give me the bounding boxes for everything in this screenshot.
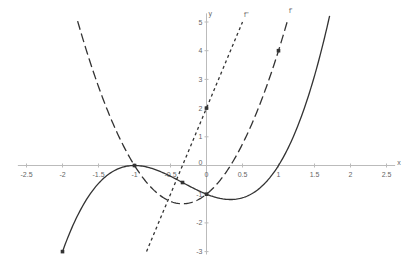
y-tick-label: 1 [199, 133, 203, 140]
x-tick-label: -2 [59, 171, 65, 178]
x-tick-label: -1 [131, 171, 137, 178]
x-tick-label: 0.5 [238, 171, 248, 178]
data-point [133, 164, 137, 168]
axes: -2.5-2-1.5-1-0.500.511.522.5-3-2-1123450… [18, 10, 401, 255]
label-f-double-prime: f'' [244, 11, 249, 18]
y-tick-label: 4 [199, 47, 203, 54]
data-point [205, 106, 209, 110]
y-tick-label: 5 [199, 19, 203, 26]
curve-f-prime-prime [147, 22, 243, 252]
curve-f-prime [78, 21, 288, 204]
points [61, 49, 281, 254]
data-point [61, 250, 65, 254]
curves [63, 16, 330, 252]
data-point [205, 192, 209, 196]
x-axis-name: x [397, 159, 401, 166]
y-tick-label: 2 [199, 105, 203, 112]
label-f-prime: f' [289, 7, 292, 14]
y-tick-label: -3 [196, 248, 202, 255]
data-point [181, 181, 185, 185]
x-tick-label: 2.5 [382, 171, 392, 178]
x-tick-label: 0 [205, 171, 209, 178]
plot-area: -2.5-2-1.5-1-0.500.511.522.5-3-2-1123450… [0, 0, 414, 271]
x-tick-label: -2.5 [20, 171, 32, 178]
x-tick-label: 2 [349, 171, 353, 178]
y-tick-label: 3 [199, 76, 203, 83]
y-axis-name: y [209, 10, 213, 18]
y-tick-label: -2 [196, 219, 202, 226]
x-tick-label: 1 [277, 171, 281, 178]
x-tick-label: 1.5 [310, 171, 320, 178]
data-point [277, 49, 281, 53]
curve-labels: f'' f' [244, 7, 292, 18]
y-zero-label: 0 [199, 159, 203, 166]
x-tick-label: -1.5 [92, 171, 104, 178]
function-graph: -2.5-2-1.5-1-0.500.511.522.5-3-2-1123450… [0, 0, 414, 271]
